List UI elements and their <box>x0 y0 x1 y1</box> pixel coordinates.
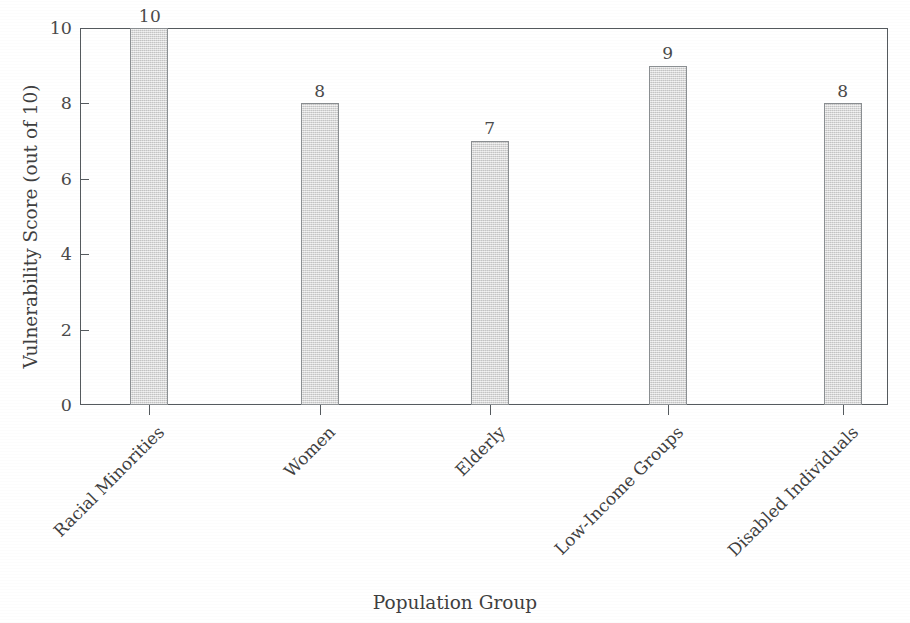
y-tick-mark-4 <box>80 254 89 255</box>
x-tick-label-elderly: Elderly <box>435 422 509 496</box>
y-axis-title: Vulnerability Score (out of 10) <box>20 27 41 427</box>
x-tick-mark-elderly <box>490 405 491 415</box>
x-tick-label-text: Low-Income Groups <box>550 422 687 559</box>
x-tick-label-disabled-individuals: Disabled Individuals <box>711 422 862 573</box>
y-tick-mark-6 <box>80 179 89 180</box>
x-tick-mark-racial-minorities <box>149 405 150 415</box>
bar-elderly <box>471 141 509 405</box>
x-tick-label-women: Women <box>254 422 339 507</box>
x-tick-label-text: Disabled Individuals <box>724 422 862 560</box>
x-tick-label-text: Elderly <box>451 422 509 480</box>
bar-chart: 10 8 7 9 8 10 8 6 4 2 0 Vulnerability Sc… <box>0 0 910 623</box>
x-tick-mark-disabled-individuals <box>843 405 844 415</box>
bar-disabled-individuals <box>824 103 862 405</box>
bars-layer <box>80 28 888 405</box>
x-tick-mark-women <box>320 405 321 415</box>
bar-racial-minorities <box>130 28 168 405</box>
bar-low-income-groups <box>649 66 687 405</box>
x-tick-mark-low-income-groups <box>668 405 669 415</box>
bar-women <box>301 103 339 405</box>
bar-value-label-women: 8 <box>290 81 350 101</box>
bar-value-label-low-income-groups: 9 <box>638 43 698 63</box>
bar-value-label-elderly: 7 <box>460 118 520 138</box>
y-tick-mark-2 <box>80 330 89 331</box>
x-tick-label-text: Women <box>280 422 339 481</box>
y-tick-mark-8 <box>80 103 89 104</box>
x-axis-title: Population Group <box>0 592 910 613</box>
bar-value-label-disabled-individuals: 8 <box>813 81 873 101</box>
x-tick-label-low-income-groups: Low-Income Groups <box>544 422 688 566</box>
bar-value-label-racial-minorities: 10 <box>120 6 180 26</box>
